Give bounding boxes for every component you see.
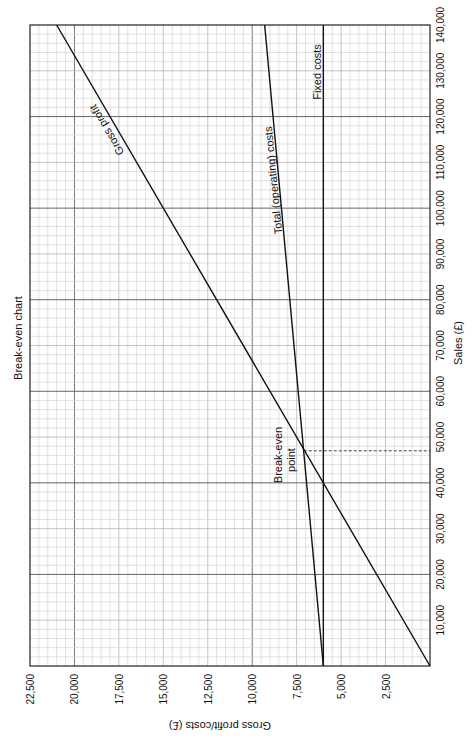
grid	[30, 25, 430, 666]
x-tick-label: 50,000	[435, 421, 446, 452]
breakeven-label-line2: point	[285, 448, 297, 472]
x-tick-label: 90,000	[435, 238, 446, 269]
x-axis-label: Sales (£)	[452, 321, 464, 365]
y-tick-label: 2,500	[381, 674, 392, 699]
y-tick-label: 12,500	[203, 674, 214, 705]
fixed-costs-label: Fixed costs	[311, 44, 323, 100]
y-tick-label: 10,000	[247, 674, 258, 705]
breakeven-label-line1: Break-even	[272, 427, 284, 483]
x-tick-label: 130,000	[435, 52, 446, 89]
y-tick-label: 22,500	[25, 674, 36, 705]
y-tick-label: 15,000	[158, 674, 169, 705]
y-tick-label: 17,500	[114, 674, 125, 705]
x-tick-label: 60,000	[435, 376, 446, 407]
x-tick-label: 70,000	[435, 330, 446, 361]
chart-title: Break-even chart	[12, 296, 24, 380]
x-tick-label: 140,000	[435, 6, 446, 43]
x-tick-label: 10,000	[435, 604, 446, 635]
y-tick-label: 5,000	[336, 674, 347, 699]
x-tick-label: 20,000	[435, 559, 446, 590]
x-tick-label: 120,000	[435, 98, 446, 135]
y-axis-label: Gross profit/costs (£)	[169, 720, 271, 732]
x-tick-label: 110,000	[435, 144, 446, 180]
total-costs-label: Total (operating) costs	[262, 125, 284, 234]
x-tick-label: 30,000	[435, 513, 446, 544]
break-even-chart: 10,00020,00030,00040,00050,00060,00070,0…	[0, 0, 476, 747]
x-tick-label: 100,000	[435, 190, 446, 227]
y-tick-label: 7,500	[292, 674, 303, 699]
x-tick-label: 80,000	[435, 284, 446, 315]
y-tick-label: 20,000	[69, 674, 80, 705]
x-tick-label: 40,000	[435, 467, 446, 498]
